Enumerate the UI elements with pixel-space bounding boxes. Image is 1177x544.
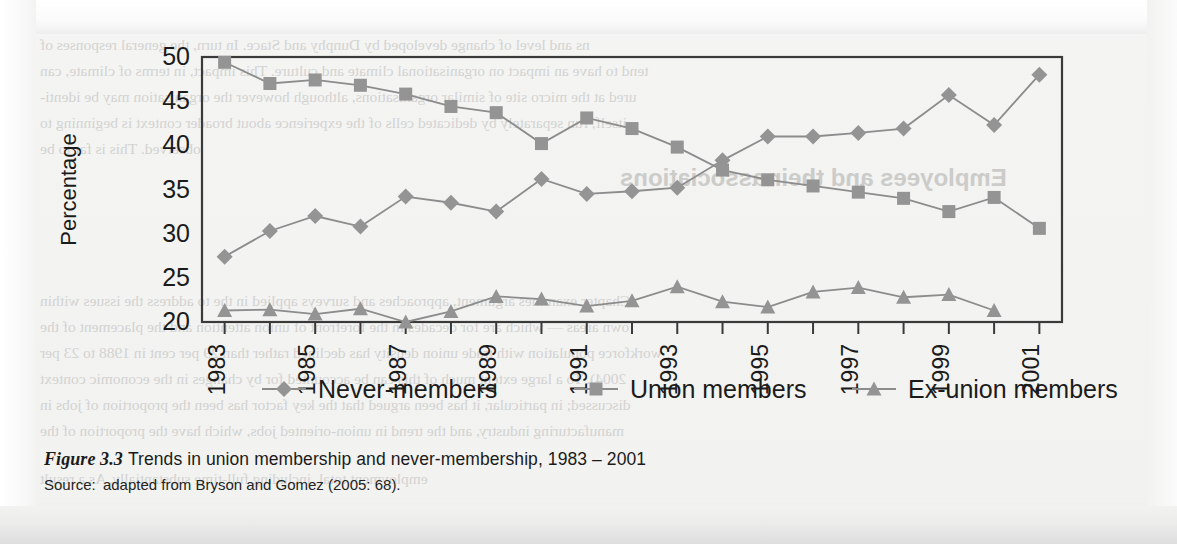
data-point-marker — [444, 100, 457, 113]
data-point-marker — [715, 294, 730, 308]
data-point-marker — [625, 293, 640, 307]
source-label: Source: — [44, 476, 96, 493]
data-point-marker — [533, 171, 549, 187]
data-point-marker — [352, 219, 368, 235]
data-point-marker — [263, 77, 276, 90]
data-point-marker — [761, 173, 774, 186]
data-point-marker — [624, 183, 640, 199]
data-point-marker — [669, 180, 685, 196]
figure-3-3: 20253035404550Percentage1983198519871989… — [36, 44, 1144, 512]
page-top-shadow — [0, 0, 1177, 34]
y-axis-tick-label: 25 — [162, 263, 190, 291]
source-text: adapted from Bryson and Gomez (2005: 68)… — [103, 476, 401, 493]
chart-plot-area: 20253035404550Percentage1983198519871989… — [36, 44, 1144, 434]
data-series — [217, 67, 1048, 265]
data-point-marker — [579, 186, 595, 202]
data-point-marker — [987, 303, 1002, 317]
data-point-marker — [760, 129, 776, 145]
data-point-marker — [218, 56, 231, 69]
data-point-marker — [670, 279, 685, 293]
data-point-marker — [851, 280, 866, 294]
y-axis-title: Percentage — [56, 133, 81, 246]
line-chart: 20253035404550Percentage1983198519871989… — [36, 44, 1144, 434]
legend-label: Union members — [630, 375, 806, 403]
data-point-marker — [353, 301, 368, 315]
data-point-marker — [443, 195, 459, 211]
data-point-marker — [941, 87, 957, 103]
data-series — [218, 56, 1046, 235]
data-point-marker — [488, 204, 504, 220]
figure-source: Source: adapted from Bryson and Gomez (2… — [44, 476, 1044, 493]
data-point-marker — [443, 304, 458, 318]
data-point-marker — [398, 189, 414, 205]
legend-marker-icon — [276, 381, 292, 397]
data-point-marker — [1033, 222, 1046, 235]
data-point-marker — [897, 192, 910, 205]
data-point-marker — [217, 249, 233, 265]
data-point-marker — [850, 125, 866, 141]
x-axis-tick-label: 1997 — [837, 344, 863, 395]
x-axis-tick-label: 1983 — [204, 344, 230, 395]
data-point-marker — [307, 208, 323, 224]
data-point-marker — [988, 191, 1001, 204]
figure-caption: Figure 3.3Trends in union membership and… — [44, 448, 1044, 471]
y-axis-tick-label: 20 — [162, 307, 190, 335]
data-point-marker — [262, 223, 278, 239]
data-point-marker — [626, 122, 639, 135]
data-point-marker — [807, 179, 820, 192]
data-point-marker — [942, 205, 955, 218]
x-axis-tick-label: 1991 — [566, 344, 592, 395]
y-axis-tick-label: 45 — [162, 86, 190, 114]
x-axis-tick-label: 1985 — [294, 344, 320, 395]
data-point-marker — [535, 137, 548, 150]
data-point-marker — [852, 186, 865, 199]
legend-item[interactable]: Union members — [574, 375, 806, 403]
data-point-marker — [716, 164, 729, 177]
figure-number: Figure 3.3 — [44, 449, 123, 469]
legend-item[interactable]: Ex-union members — [852, 375, 1118, 403]
page-right-edge — [1147, 0, 1177, 544]
figure-title: Trends in union membership and never-mem… — [128, 449, 646, 469]
legend-marker-icon — [590, 383, 603, 396]
figure-caption-block: Figure 3.3Trends in union membership and… — [44, 448, 1044, 493]
data-point-marker — [580, 111, 593, 124]
data-point-marker — [671, 141, 684, 154]
y-axis-tick-label: 30 — [162, 219, 190, 247]
legend-label: Ex-union members — [908, 375, 1118, 403]
y-axis-tick-label: 50 — [162, 44, 190, 70]
data-point-marker — [399, 88, 412, 101]
page-left-edge — [0, 0, 36, 544]
data-point-marker — [805, 129, 821, 145]
y-axis-tick-label: 35 — [162, 175, 190, 203]
data-point-marker — [896, 121, 912, 137]
y-axis-tick-label: 40 — [162, 130, 190, 158]
data-point-marker — [354, 79, 367, 92]
data-point-marker — [309, 73, 322, 86]
legend-label: Never-members — [318, 375, 497, 403]
data-point-marker — [490, 106, 503, 119]
